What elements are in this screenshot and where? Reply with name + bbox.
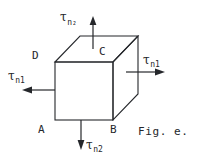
arrow-left-tau-n1 xyxy=(22,87,55,94)
stress-label-right: τn1 xyxy=(143,51,159,67)
stress-label-top: τn₂ xyxy=(60,8,76,24)
tau-subscript-left: n1 xyxy=(15,76,25,85)
arrow-top-tau-n2 xyxy=(90,16,97,49)
vertex-label-b: B xyxy=(110,124,117,135)
arrow-right-tau-n1 xyxy=(126,69,165,76)
stress-label-left: τn1 xyxy=(8,67,24,83)
tau-subscript-top: n₂ xyxy=(67,18,77,27)
tau-subscript-bottom: n2 xyxy=(93,145,103,154)
tau-subscript-right: n1 xyxy=(150,60,160,69)
tau-symbol-top: τ xyxy=(60,10,67,24)
vertex-label-c: C xyxy=(99,46,106,57)
tau-symbol-left: τ xyxy=(8,69,15,83)
vertex-label-d: D xyxy=(32,50,39,61)
figure-container: D C A B τn₂ τn2 τn1 τn1 Fig. e. xyxy=(0,0,197,162)
arrow-bottom-tau-n2 xyxy=(78,120,85,150)
tau-symbol-right: τ xyxy=(143,53,150,67)
vertex-label-a: A xyxy=(38,124,45,135)
figure-caption: Fig. e. xyxy=(138,126,189,137)
cube-front-face xyxy=(55,62,113,120)
stress-label-bottom: τn2 xyxy=(86,136,102,152)
tau-symbol-bottom: τ xyxy=(86,138,93,152)
cube-right-face xyxy=(113,36,138,120)
